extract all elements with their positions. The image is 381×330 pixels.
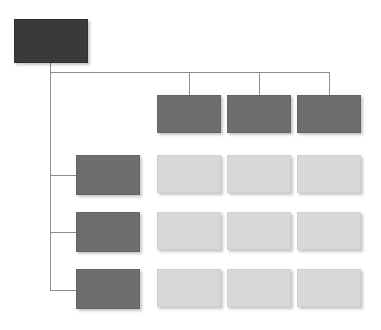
connector-left-spine [50,72,51,290]
connector-drop-top-2 [259,72,260,95]
node-grid-r2c2[interactable] [227,212,291,250]
node-top-row-2[interactable] [227,95,291,133]
node-root[interactable] [14,19,88,63]
node-left-column-3[interactable] [76,269,140,309]
node-grid-r1c1[interactable] [157,155,221,193]
node-grid-r2c3[interactable] [297,212,361,250]
connector-stub-left-2 [50,232,76,233]
connector-drop-top-3 [329,72,330,95]
node-top-row-1[interactable] [157,95,221,133]
node-left-column-2[interactable] [76,212,140,252]
node-grid-r1c3[interactable] [297,155,361,193]
connector-stub-left-1 [50,175,76,176]
node-grid-r3c1[interactable] [157,269,221,307]
node-top-row-3[interactable] [297,95,361,133]
connector-drop-top-1 [189,72,190,95]
node-grid-r2c1[interactable] [157,212,221,250]
node-left-column-1[interactable] [76,155,140,195]
node-grid-r1c2[interactable] [227,155,291,193]
node-grid-r3c3[interactable] [297,269,361,307]
connector-root-stem [50,63,51,72]
node-grid-r3c2[interactable] [227,269,291,307]
org-chart-diagram [0,0,381,330]
connector-stub-left-3 [50,290,76,291]
